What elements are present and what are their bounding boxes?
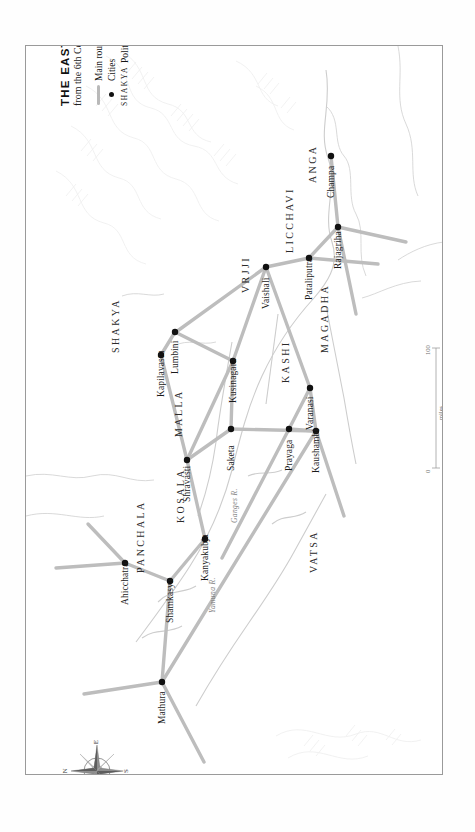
region-label: MAGADHA: [319, 284, 330, 353]
legend-region-sample: SHAKYA: [120, 66, 129, 106]
page-title: THE EASTERN GANGES REGION: [59, 45, 71, 106]
city-label: Vaishali: [261, 278, 271, 309]
subtitle-text: from the 6th Century: [72, 45, 83, 106]
route-line-icon: [97, 84, 100, 106]
city-dot: [286, 426, 292, 432]
scale-miles-label: miles: [437, 406, 443, 420]
city-label: Kapilavastu: [156, 351, 166, 397]
legend: Main routes Cities SHAKYA Political regi…: [92, 45, 131, 106]
scale-miles-max: 100: [424, 345, 431, 355]
city-label: Varanasi: [305, 396, 315, 430]
city-dot: [159, 679, 165, 685]
city-label: Mathura: [157, 691, 167, 724]
city-label: Lumbini: [170, 341, 180, 374]
region-label: VRJJI: [240, 256, 251, 293]
region-label: MALLA: [173, 389, 184, 437]
city-dot: [172, 329, 178, 335]
region-label: VATSA: [308, 530, 319, 573]
city-label: Champa: [326, 166, 336, 198]
compass-east-label: E: [92, 740, 100, 744]
river-label: Yamuna R.: [208, 577, 217, 613]
city-dot: [184, 457, 190, 463]
region-label: SHAKYA: [110, 298, 121, 353]
river-label: Ganges R.: [230, 488, 239, 523]
scale-miles-min: 0: [424, 470, 431, 473]
map-graphics: [26, 46, 443, 775]
region-label: LICCHAVI: [284, 187, 295, 253]
city-dot: [335, 224, 341, 230]
legend-cities-label: Cities: [107, 59, 117, 81]
city-label: Prayaga: [284, 440, 294, 471]
title-block: THE EASTERN GANGES REGION from the 6th C…: [59, 45, 131, 106]
compass-south-label: S: [122, 769, 130, 773]
city-label: Shamkasya: [165, 579, 175, 623]
legend-routes-label: Main routes: [94, 45, 104, 81]
region-label: PANCHALA: [135, 500, 146, 573]
city-label: Rajagriha: [333, 231, 343, 269]
scale-bar: 0 100 miles 0 100 kilometres: [426, 326, 443, 476]
compass-rose: N E S W: [67, 741, 127, 775]
city-dot: [228, 426, 234, 432]
city-label: Kanyakubja: [200, 534, 210, 581]
map-frame: THE EASTERN GANGES REGION from the 6th C…: [25, 45, 443, 775]
city-dot: [263, 264, 269, 270]
city-label: Kusinagara: [228, 359, 238, 403]
region-label: ANGA: [307, 145, 318, 184]
map-page: THE EASTERN GANGES REGION from the 6th C…: [0, 0, 475, 832]
compass-graphic: [67, 741, 127, 775]
city-label: Pataliputra: [304, 258, 314, 300]
city-dot: [328, 153, 334, 159]
compass-north-label: N: [61, 768, 69, 773]
page-subtitle: from the 6th Century BCE: [72, 45, 83, 106]
city-label: Saketa: [226, 445, 236, 471]
city-label: Kaushambi: [311, 429, 321, 473]
legend-item-routes: Main routes: [92, 45, 105, 106]
city-label: Ahicchatra: [120, 562, 130, 605]
legend-item-regions: SHAKYA Political regions: [118, 45, 131, 106]
legend-regions-label: Political regions: [120, 45, 130, 63]
region-label: KOSALA: [175, 468, 186, 523]
city-dot-icon: [109, 84, 114, 106]
legend-item-cities: Cities: [105, 45, 118, 106]
terrain-hachures-south: [276, 725, 421, 759]
region-label: KASHI: [280, 340, 291, 383]
city-dot: [307, 385, 313, 391]
